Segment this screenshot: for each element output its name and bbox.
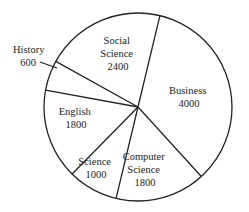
label-history: History 600 (13, 44, 47, 68)
pie-chart: Social Science 2400 Business 4000 Comput… (0, 0, 249, 212)
